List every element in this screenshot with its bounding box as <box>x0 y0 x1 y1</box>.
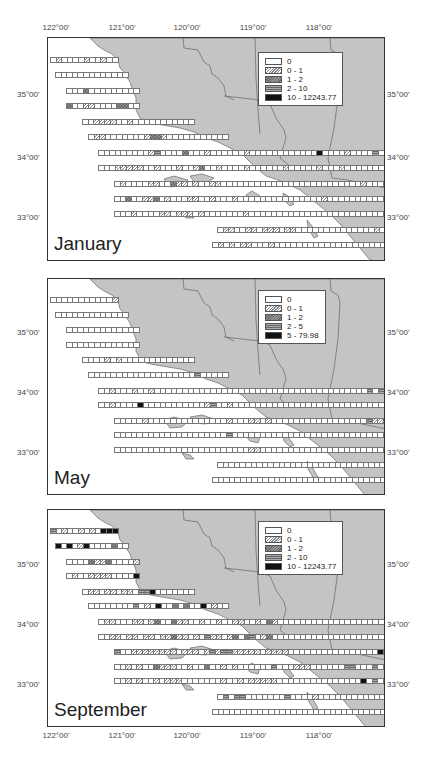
legend-swatch <box>265 545 282 552</box>
transect-cell <box>133 342 140 348</box>
lat-label-right: 35°00' <box>387 328 410 337</box>
legend-entry: 10 - 12243.77 <box>265 562 336 571</box>
lat-label-right: 35°00' <box>387 90 410 99</box>
legend-swatch <box>265 332 282 339</box>
transect-cell <box>112 297 119 303</box>
transect-cell <box>380 709 385 715</box>
lat-label-right: 33°00' <box>387 213 410 222</box>
lon-label: 121°00' <box>109 731 136 740</box>
lat-label-left: 33°00' <box>17 448 40 457</box>
map-panel-september: 00 - 11 - 22 - 1010 - 12243.77September <box>47 509 385 727</box>
lat-label-left: 33°00' <box>17 680 40 689</box>
legend-entry: 1 - 2 <box>265 544 336 553</box>
transect-cell <box>383 447 385 453</box>
lon-label: 121°00' <box>109 23 136 32</box>
transect-cell <box>384 634 385 640</box>
legend-label: 1 - 2 <box>287 75 303 84</box>
lat-label-left: 35°00' <box>17 328 40 337</box>
transect-cell <box>188 357 195 363</box>
transect-cell <box>133 327 140 333</box>
legend-entry: 2 - 10 <box>265 84 336 93</box>
legend-label: 0 <box>287 295 291 304</box>
legend-swatch <box>265 94 282 101</box>
lat-label-right: 33°00' <box>387 448 410 457</box>
legend-entry: 0 - 1 <box>265 66 336 75</box>
lat-label-right: 33°00' <box>387 680 410 689</box>
transect-grid <box>48 279 384 494</box>
legend-label: 0 <box>287 57 291 66</box>
transect-cell <box>122 72 129 78</box>
legend-label: 2 - 10 <box>287 553 307 562</box>
transect-cell <box>379 227 385 233</box>
legend-entry: 1 - 2 <box>265 313 319 322</box>
transect-cell <box>384 619 385 625</box>
legend-swatch <box>265 76 282 83</box>
lat-label-left: 33°00' <box>17 213 40 222</box>
transect-cell <box>384 402 385 408</box>
transect-cell <box>384 165 385 171</box>
legend-label: 10 - 12243.77 <box>287 93 336 102</box>
legend: 00 - 11 - 22 - 55 - 79.98 <box>258 290 326 344</box>
legend-label: 2 - 10 <box>287 84 307 93</box>
lat-label-right: 34°00' <box>387 620 410 629</box>
legend-label: 2 - 5 <box>287 322 303 331</box>
legend-entry: 10 - 12243.77 <box>265 93 336 102</box>
transect-cell <box>383 649 385 655</box>
transect-cell <box>384 150 385 156</box>
transect-cell <box>112 528 119 534</box>
transect-cell <box>222 372 229 378</box>
legend-label: 5 - 79.98 <box>287 331 319 340</box>
legend-entry: 0 <box>265 526 336 535</box>
transect-cell <box>383 211 385 217</box>
transect-cell <box>383 678 385 684</box>
transect-cell <box>380 477 385 483</box>
legend-entry: 0 <box>265 295 319 304</box>
legend-swatch <box>265 536 282 543</box>
lat-label-right: 34°00' <box>387 153 410 162</box>
lat-label-left: 35°00' <box>17 560 40 569</box>
transect-cell <box>383 432 385 438</box>
transect-cell <box>122 312 129 318</box>
transect-cell <box>379 462 385 468</box>
transect-cell <box>122 543 129 549</box>
legend-swatch <box>265 527 282 534</box>
month-label: September <box>54 699 147 721</box>
legend-label: 0 - 1 <box>287 66 303 75</box>
legend-label: 1 - 2 <box>287 544 303 553</box>
legend-label: 0 - 1 <box>287 535 303 544</box>
lat-label-left: 34°00' <box>17 153 40 162</box>
legend-swatch <box>265 296 282 303</box>
legend-swatch <box>265 554 282 561</box>
lon-label: 120°00' <box>174 731 201 740</box>
legend-label: 10 - 12243.77 <box>287 562 336 571</box>
legend-label: 1 - 2 <box>287 313 303 322</box>
transect-cell <box>383 664 385 670</box>
legend-swatch <box>265 58 282 65</box>
legend-entry: 0 - 1 <box>265 304 319 313</box>
legend-entry: 2 - 5 <box>265 322 319 331</box>
lon-label: 122°00' <box>43 23 70 32</box>
transect-cell <box>222 134 229 140</box>
transect-cell <box>222 603 229 609</box>
lat-label-left: 35°00' <box>17 90 40 99</box>
transect-cell <box>383 181 385 187</box>
transect-cell <box>384 388 385 394</box>
lat-label-right: 34°00' <box>387 388 410 397</box>
transect-cell <box>133 88 140 94</box>
transect-cell <box>380 242 385 248</box>
map-panel-january: 00 - 11 - 22 - 1010 - 12243.77January <box>47 37 385 261</box>
transect-cell <box>133 103 140 109</box>
transect-cell <box>383 196 385 202</box>
legend-label: 0 <box>287 526 291 535</box>
lat-label-right: 35°00' <box>387 560 410 569</box>
legend-swatch <box>265 85 282 92</box>
transect-cell <box>133 573 140 579</box>
lon-label: 119°00' <box>240 23 266 32</box>
transect-cell <box>383 418 385 424</box>
legend-label: 0 - 1 <box>287 304 303 313</box>
lon-label: 118°00' <box>306 731 332 740</box>
legend-entry: 1 - 2 <box>265 75 336 84</box>
transect-cell <box>112 57 119 63</box>
transect-cell <box>379 694 385 700</box>
legend-swatch <box>265 314 282 321</box>
